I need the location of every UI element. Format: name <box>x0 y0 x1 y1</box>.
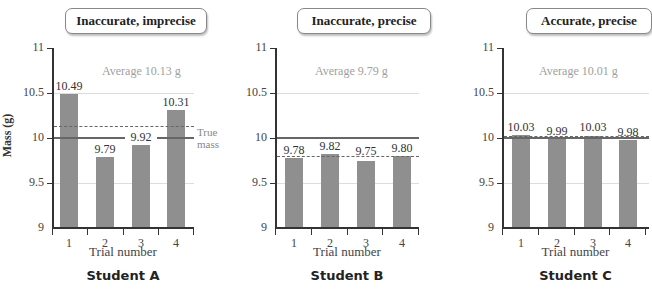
panel-student-b: Inaccurate, precise 11 10.5 10 9.5 9 Ave… <box>222 0 442 301</box>
y-tick-label: 9.5 <box>231 175 267 190</box>
student-label: Student A <box>52 268 194 283</box>
x-tick <box>645 229 646 235</box>
plot-area: 11 10.5 10 9.5 9 Average 9.79 g 9.78 9.8… <box>275 48 420 228</box>
x-axis-title: Trial number <box>52 244 194 260</box>
x-axis-title: Trial number <box>275 244 419 260</box>
bar-trial-1 <box>512 135 530 228</box>
x-tick <box>123 229 124 235</box>
x-tick <box>311 229 312 235</box>
bar-value-label: 9.92 <box>125 130 157 145</box>
panel-title-badge: Accurate, precise <box>526 8 652 34</box>
bar-trial-1 <box>60 94 78 228</box>
bar-trial-3 <box>584 136 602 228</box>
bar-value-label: 10.31 <box>156 95 196 110</box>
y-tick-label: 9.5 <box>8 175 44 190</box>
gridline <box>504 93 649 94</box>
true-mass-line <box>54 137 194 139</box>
x-tick <box>275 229 276 235</box>
bar-value-label: 9.75 <box>346 144 386 159</box>
bar-trial-4 <box>619 140 637 228</box>
bar-value-label: 9.80 <box>382 141 422 156</box>
y-axis <box>52 48 54 229</box>
x-tick <box>158 229 159 235</box>
x-tick <box>609 229 610 235</box>
x-tick <box>502 229 503 235</box>
bar-value-label: 9.78 <box>274 143 314 158</box>
panel-student-c: Accurate, precise 11 10.5 10 9.5 9 Avera… <box>440 0 651 301</box>
y-tick-label: 9 <box>8 220 44 235</box>
true-mass-label: True mass <box>197 126 219 150</box>
y-tick-label: 9.5 <box>458 175 494 190</box>
y-tick-label: 10 <box>8 130 44 145</box>
y-tick-label: 9 <box>231 220 267 235</box>
student-label: Student C <box>502 268 649 283</box>
x-tick <box>382 229 383 235</box>
bar-trial-3 <box>132 145 150 228</box>
x-tick <box>418 229 419 235</box>
bar-value-label: 10.03 <box>501 120 541 135</box>
bar-value-label: 10.03 <box>573 120 613 135</box>
y-axis <box>502 48 504 229</box>
average-label: Average 10.01 g <box>539 64 618 79</box>
panel-title-badge: Inaccurate, precise <box>297 8 431 34</box>
y-tick-label: 10 <box>231 130 267 145</box>
bar-trial-4 <box>393 156 411 228</box>
plot-area: 11 10.5 10 9.5 9 Average 10.13 g 10.49 9… <box>52 48 197 228</box>
y-axis <box>275 48 277 229</box>
student-label: Student B <box>275 268 419 283</box>
bar-trial-2 <box>321 154 339 228</box>
x-tick <box>52 229 53 235</box>
true-mass-label-line2: mass <box>197 138 219 150</box>
bar-value-label: 9.79 <box>85 142 125 157</box>
bar-trial-1 <box>285 158 303 228</box>
bar-value-label: 9.82 <box>310 139 350 154</box>
bar-trial-2 <box>96 157 114 228</box>
y-tick-label: 11 <box>8 40 44 55</box>
bar-value-label: 9.98 <box>608 125 648 140</box>
average-label: Average 10.13 g <box>102 64 181 79</box>
bar-value-label: 10.49 <box>49 79 89 94</box>
y-tick-label: 10 <box>458 130 494 145</box>
bar-trial-2 <box>548 139 566 228</box>
y-tick-label: 10.5 <box>458 85 494 100</box>
y-tick-label: 10.5 <box>231 85 267 100</box>
panel-title-badge: Inaccurate, imprecise <box>65 8 207 34</box>
average-dashed-line <box>54 126 194 127</box>
average-label: Average 9.79 g <box>315 64 388 79</box>
y-tick-label: 9 <box>458 220 494 235</box>
true-mass-label-line1: True <box>197 126 219 138</box>
x-tick <box>347 229 348 235</box>
bar-trial-4 <box>167 110 185 228</box>
x-axis-title: Trial number <box>502 244 649 260</box>
y-tick-label: 11 <box>458 40 494 55</box>
panel-student-a: Inaccurate, imprecise Mass (g) 11 10.5 1… <box>0 0 220 301</box>
x-tick <box>193 229 194 235</box>
y-tick-label: 10.5 <box>8 85 44 100</box>
y-tick-label: 11 <box>231 40 267 55</box>
x-tick <box>87 229 88 235</box>
bar-value-label: 9.99 <box>537 124 577 139</box>
plot-area: 11 10.5 10 9.5 9 Average 10.01 g 10.03 9… <box>502 48 651 228</box>
bar-trial-3 <box>357 161 375 228</box>
x-tick <box>574 229 575 235</box>
x-tick <box>538 229 539 235</box>
x-axis <box>502 227 649 229</box>
gridline <box>277 93 419 94</box>
